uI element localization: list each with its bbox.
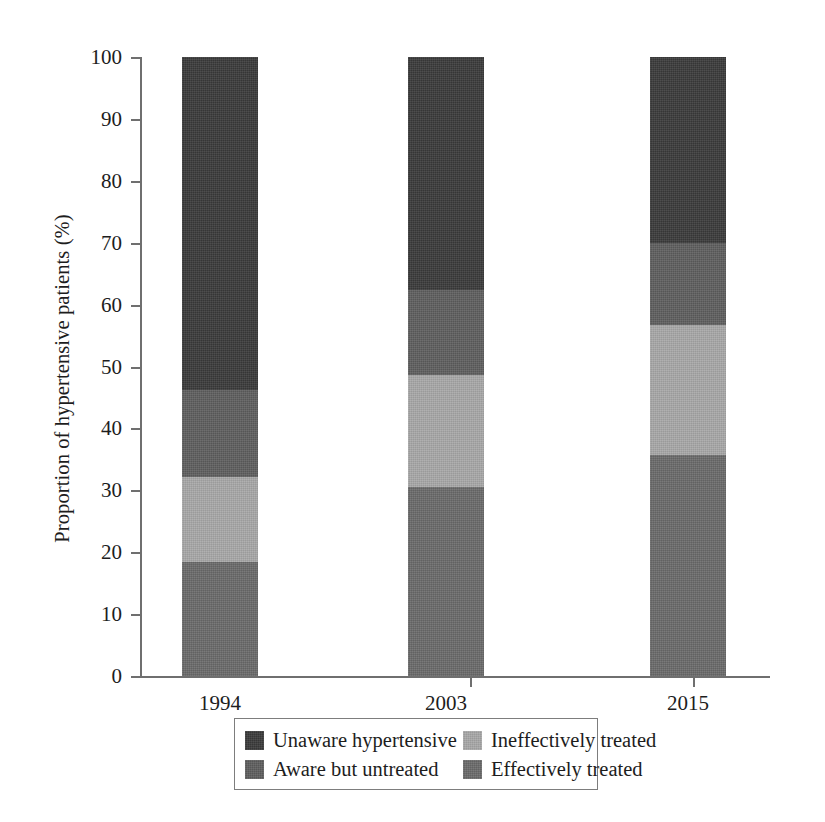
y-tick-label-90: 90 — [52, 108, 122, 129]
legend-swatch-icon-unaware — [245, 731, 264, 750]
y-axis-line — [140, 57, 142, 676]
bar-segment-effective-2003[interactable] — [408, 487, 484, 676]
y-tick-label-30: 30 — [52, 480, 122, 501]
legend-item-ineffectively-treated[interactable]: Ineffectively treated — [453, 730, 599, 751]
y-tick-label-0: 0 — [52, 666, 122, 687]
y-tick-label-20: 20 — [52, 542, 122, 563]
y-tick-90 — [131, 119, 140, 121]
bar-segment-aware-2003[interactable] — [408, 290, 484, 376]
legend-swatch-icon-ineffective — [463, 731, 482, 750]
y-tick-0 — [131, 676, 140, 678]
legend-label-effective: Effectively treated — [491, 759, 643, 780]
legend-item-aware-but-untreated[interactable]: Aware but untreated — [235, 759, 453, 780]
bar-segment-ineffective-1994[interactable] — [182, 477, 258, 562]
y-tick-label-70: 70 — [52, 232, 122, 253]
bar-segment-unaware-2003[interactable] — [408, 57, 484, 290]
bar-segment-unaware-2015[interactable] — [650, 57, 726, 243]
bar-segment-aware-1994[interactable] — [182, 390, 258, 477]
bar-segment-effective-1994[interactable] — [182, 562, 258, 676]
legend-swatch-icon-effective — [463, 760, 482, 779]
y-axis-title: Proportion of hypertensive patients (%) — [51, 69, 74, 689]
legend-swatch-icon-aware — [245, 760, 264, 779]
x-tick-label-2003: 2003 — [376, 693, 516, 714]
plot-area: 100 90 80 70 60 50 40 30 20 10 0 — [140, 57, 770, 676]
legend-label-ineffective: Ineffectively treated — [491, 730, 656, 751]
x-tick-1 — [470, 676, 472, 687]
legend-label-unaware: Unaware hypertensive — [273, 730, 457, 751]
x-axis-line — [140, 676, 770, 678]
legend-item-unaware-hypertensive[interactable]: Unaware hypertensive — [235, 730, 453, 751]
bar-segment-aware-2015[interactable] — [650, 243, 726, 325]
x-tick-label-2015: 2015 — [618, 693, 758, 714]
y-tick-30 — [131, 490, 140, 492]
y-tick-label-80: 80 — [52, 170, 122, 191]
legend-item-effectively-treated[interactable]: Effectively treated — [453, 759, 599, 780]
x-tick-2 — [693, 676, 695, 687]
bar-segment-ineffective-2015[interactable] — [650, 325, 726, 455]
bar-segment-effective-2015[interactable] — [650, 455, 726, 676]
chart-legend: Unaware hypertensive Ineffectively treat… — [234, 718, 598, 790]
y-tick-100 — [131, 57, 140, 59]
y-tick-70 — [131, 243, 140, 245]
bar-segment-ineffective-2003[interactable] — [408, 375, 484, 487]
y-tick-50 — [131, 367, 140, 369]
legend-label-aware: Aware but untreated — [273, 759, 438, 780]
y-tick-label-60: 60 — [52, 294, 122, 315]
y-tick-40 — [131, 428, 140, 430]
y-tick-80 — [131, 181, 140, 183]
y-tick-label-50: 50 — [52, 356, 122, 377]
y-tick-20 — [131, 552, 140, 554]
chart-figure: Proportion of hypertensive patients (%) … — [0, 0, 825, 822]
y-tick-label-40: 40 — [52, 418, 122, 439]
bar-segment-unaware-1994[interactable] — [182, 57, 258, 390]
y-tick-60 — [131, 305, 140, 307]
y-tick-label-10: 10 — [52, 604, 122, 625]
x-tick-label-1994: 1994 — [150, 693, 290, 714]
y-tick-10 — [131, 614, 140, 616]
y-tick-label-100: 100 — [52, 47, 122, 68]
